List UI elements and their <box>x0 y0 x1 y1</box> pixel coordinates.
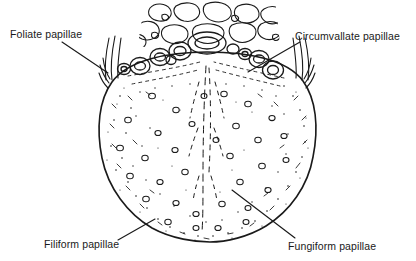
label-foliate-papillae: Foliate papillae <box>10 28 82 40</box>
label-fungiform-papillae: Fungiform papillae <box>288 240 376 252</box>
lingual-tonsil-region <box>127 2 302 49</box>
tongue-outline <box>99 52 316 242</box>
label-filiform-papillae: Filiform papillae <box>44 238 119 250</box>
tongue-anatomy-figure: Foliate papillae Circumvallate papillae … <box>0 0 416 261</box>
leader-line-filiform <box>118 219 155 240</box>
label-circumvallate-papillae: Circumvallate papillae <box>295 30 400 42</box>
leader-line-foliate <box>62 42 108 73</box>
